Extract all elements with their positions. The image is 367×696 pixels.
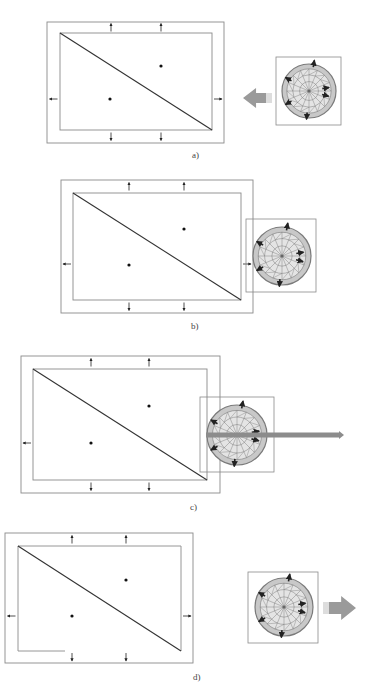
diagonal-line [18, 546, 181, 651]
actuator-arrow-icon [279, 279, 280, 286]
spherical-mesh-icon [282, 60, 336, 119]
point-marker [182, 227, 185, 230]
spherical-mesh-icon [255, 574, 313, 637]
spherical-mesh-icon [253, 223, 311, 286]
actuator-arrow-icon [234, 459, 235, 466]
diagonal-line [33, 369, 207, 480]
actuator-arrow-icon [307, 113, 308, 120]
motion-arrow-right-icon [324, 596, 356, 620]
panel-b [61, 180, 316, 313]
point-marker [159, 64, 162, 67]
outer-boundary [47, 22, 224, 143]
point-marker [147, 404, 150, 407]
actuator-arrow-icon [281, 630, 282, 637]
point-marker [124, 578, 127, 581]
panel-d [5, 533, 356, 663]
diagonal-line [60, 33, 212, 130]
point-marker [127, 263, 130, 266]
panel-label-b: b) [191, 321, 199, 331]
panel-c [21, 356, 344, 493]
panel-label-a: a) [192, 150, 199, 160]
panel-a [47, 22, 341, 143]
diagonal-line [73, 193, 241, 300]
point-marker [108, 97, 111, 100]
point-marker [70, 614, 73, 617]
panel-label-d: d) [193, 672, 201, 682]
motion-arrow-left-icon [243, 88, 271, 108]
panel-label-c: c) [190, 502, 197, 512]
diagram-canvas: a) b) c) d) [0, 0, 367, 696]
point-marker [89, 441, 92, 444]
